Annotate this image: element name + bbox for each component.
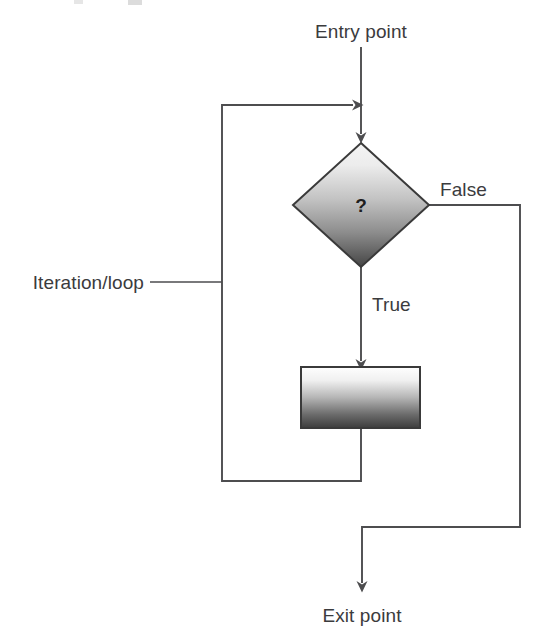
entry-point-label: Entry point	[315, 21, 408, 42]
decision-question-mark: ?	[355, 195, 367, 216]
flowchart-svg: ? Entry point Exit point Iteration/loop …	[0, 0, 546, 634]
false-branch-label: False	[440, 179, 487, 200]
iteration-loop-label: Iteration/loop	[33, 272, 144, 293]
exit-point-label: Exit point	[322, 605, 402, 626]
flowchart-canvas: ? Entry point Exit point Iteration/loop …	[0, 0, 546, 634]
true-branch-label: True	[372, 294, 411, 315]
cropped-heading-remnant	[74, 0, 142, 5]
process-rectangle-node[interactable]	[301, 367, 420, 428]
